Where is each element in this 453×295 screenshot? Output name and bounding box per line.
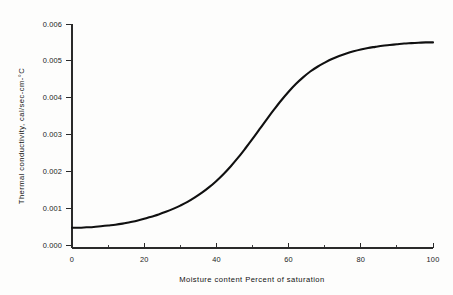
y-tick-label-2: 0.002 [43, 167, 62, 176]
x-tick-label-0: 0 [70, 255, 74, 264]
x-tick-label-40: 40 [212, 255, 221, 264]
thermal-conductivity-line-chart: 0.006 0.005 0.004 0.003 0.002 0.001 0.00… [0, 0, 453, 295]
x-tick-label-100: 100 [427, 255, 440, 264]
y-tick-label-0: 0.000 [43, 241, 62, 250]
y-tick-label-6: 0.006 [43, 20, 62, 29]
x-tick-label-60: 60 [284, 255, 293, 264]
y-tick-label-5: 0.005 [43, 56, 62, 65]
chart-background [0, 0, 453, 295]
y-tick-label-4: 0.004 [43, 93, 62, 102]
y-tick-label-1: 0.001 [43, 204, 62, 213]
chart-figure: 0.006 0.005 0.004 0.003 0.002 0.001 0.00… [0, 0, 453, 295]
x-axis-title: Moisture content Percent of saturation [179, 275, 324, 284]
x-tick-label-80: 80 [357, 255, 366, 264]
y-tick-label-3: 0.003 [43, 130, 62, 139]
x-tick-label-20: 20 [140, 255, 149, 264]
y-axis-title: Thermal conductivity, cal/sec-cm-°C [17, 68, 26, 204]
